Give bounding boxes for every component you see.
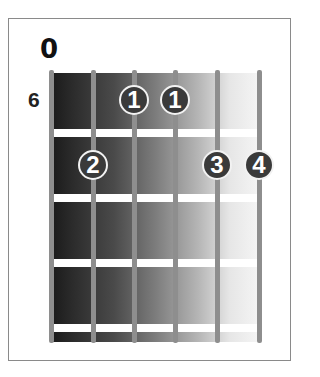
finger-marker: 2 xyxy=(78,150,108,180)
fret-line-1 xyxy=(53,129,259,137)
finger-marker: 3 xyxy=(202,150,232,180)
finger-marker: 1 xyxy=(160,85,190,115)
fret-line-4 xyxy=(53,324,259,332)
fret-line-2 xyxy=(53,194,259,202)
string-1 xyxy=(49,70,54,343)
string-2 xyxy=(91,70,96,343)
finger-marker: 4 xyxy=(244,150,274,180)
open-string-marker: 0 xyxy=(40,36,58,62)
fret-line-3 xyxy=(53,259,259,267)
fretboard xyxy=(51,73,261,342)
starting-fret-label: 6 xyxy=(28,89,40,110)
string-5 xyxy=(215,70,220,343)
string-6 xyxy=(257,70,262,343)
finger-marker: 1 xyxy=(119,85,149,115)
